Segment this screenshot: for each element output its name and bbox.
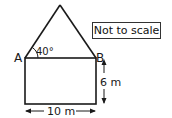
arrow-down-icon — [102, 98, 107, 104]
angle-label: 40° — [36, 46, 54, 57]
width-label: 10 m — [47, 105, 75, 118]
rectangle — [25, 58, 96, 104]
arrow-left-icon — [25, 109, 31, 114]
house-diagram: A B 40° 6 m 10 m — [0, 0, 172, 118]
height-label: 6 m — [100, 76, 121, 89]
triangle-right-side — [60, 5, 96, 58]
not-to-scale-note: Not to scale — [92, 22, 161, 39]
point-a-label: A — [14, 51, 23, 65]
arrow-right-icon — [90, 109, 96, 114]
